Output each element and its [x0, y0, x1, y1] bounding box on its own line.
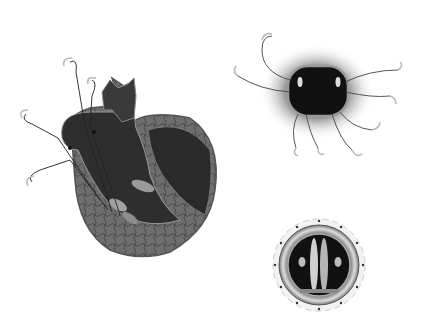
heart-illustration: [21, 58, 216, 257]
ring-valve-illustration: [234, 34, 401, 156]
suture-knot: [68, 146, 72, 150]
illustration-canvas: [0, 0, 422, 336]
highlight: [336, 77, 341, 87]
suture-knot: [92, 130, 96, 134]
valve-leaflet: [320, 238, 328, 292]
valve-bar: [300, 289, 338, 293]
valve-ring: [288, 66, 348, 116]
pivot: [335, 257, 342, 267]
mechanical-valve-illustration: [273, 219, 365, 311]
highlight: [298, 77, 303, 87]
pivot: [299, 257, 306, 267]
valve-leaflet: [310, 238, 318, 292]
